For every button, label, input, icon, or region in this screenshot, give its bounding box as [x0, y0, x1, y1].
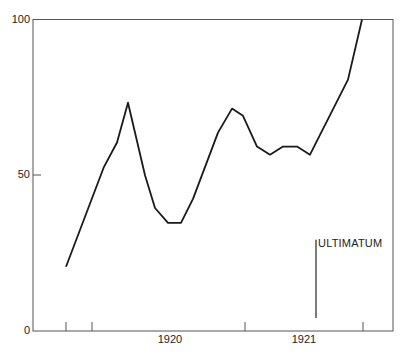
- plot-frame: [33, 20, 393, 332]
- y-tick-label-50: 50: [2, 168, 30, 180]
- x-tick-label-1921: 1921: [284, 333, 324, 345]
- x-ticks: [66, 322, 363, 331]
- y-tick-label-100: 100: [2, 13, 30, 25]
- line-chart: [0, 0, 409, 358]
- x-tick-label-1920: 1920: [150, 333, 190, 345]
- data-series-line: [66, 20, 362, 267]
- ultimatum-annotation: ULTIMATUM: [318, 237, 382, 249]
- y-tick-label-0: 0: [2, 324, 30, 336]
